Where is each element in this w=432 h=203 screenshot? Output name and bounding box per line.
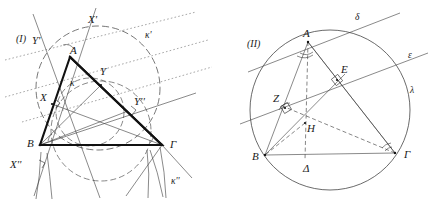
- label-point-Delta: Δ: [302, 162, 309, 174]
- geometry-figure-svg: (I) A B Γ X Y X' Y' X'' Y'' κ κ' κ'': [0, 0, 432, 203]
- label-point-Y-dprime: Y'': [134, 95, 145, 107]
- label-curve-kappa-prime: κ': [145, 30, 153, 40]
- vertex-dot-Gamma-two: [394, 152, 396, 154]
- vertex-dot-B: [39, 144, 42, 147]
- label-point-X-prime: X': [87, 13, 98, 25]
- label-point-Z: Z: [273, 92, 280, 104]
- label-point-A: A: [69, 44, 77, 56]
- label-curve-delta: δ: [355, 12, 360, 22]
- label-point-X-dprime: X'': [9, 158, 22, 170]
- vertex-dot-Gamma: [161, 144, 164, 147]
- label-curve-epsilon: ε: [408, 50, 412, 60]
- label-curve-kappa-dprime: κ'': [171, 176, 181, 186]
- panel-one-caption: (I): [16, 33, 27, 45]
- panel-two-caption: (II): [247, 38, 261, 50]
- label-point-B-two: B: [252, 150, 259, 162]
- label-curve-lambda: λ: [409, 85, 414, 95]
- point-dot-H: [304, 122, 306, 124]
- point-dot-X: [51, 103, 53, 105]
- label-point-H: H: [306, 122, 316, 134]
- label-point-X: X: [39, 91, 48, 103]
- vertex-dot-B-two: [264, 154, 266, 156]
- label-point-E: E: [340, 63, 348, 75]
- label-point-A-two: A: [302, 27, 310, 39]
- point-dot-Z: [284, 107, 286, 109]
- label-point-Gamma-two: Γ: [403, 148, 411, 160]
- label-point-Y-prime: Y': [32, 34, 41, 46]
- point-dot-Y: [100, 84, 102, 86]
- vertex-dot-A-two: [307, 41, 309, 43]
- label-point-Gamma: Γ: [169, 138, 177, 150]
- point-dot-E: [336, 79, 338, 81]
- geometry-figure-container: (I) A B Γ X Y X' Y' X'' Y'' κ κ' κ'': [0, 0, 432, 203]
- label-point-B: B: [27, 137, 34, 149]
- vertex-dot-A: [69, 56, 72, 59]
- label-curve-kappa: κ: [70, 78, 75, 88]
